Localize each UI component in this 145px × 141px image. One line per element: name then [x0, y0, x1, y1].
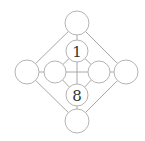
node-bottom: [65, 109, 89, 133]
node-inner-left: [44, 61, 66, 83]
node-outer-left: [15, 60, 39, 84]
node-inner-right: [88, 61, 110, 83]
node-outer-right: [114, 60, 138, 84]
label-eight: 8: [72, 87, 82, 105]
node-top: [65, 11, 89, 35]
label-one: 1: [72, 43, 82, 61]
circle-puzzle-diagram: 1 8: [0, 0, 145, 141]
